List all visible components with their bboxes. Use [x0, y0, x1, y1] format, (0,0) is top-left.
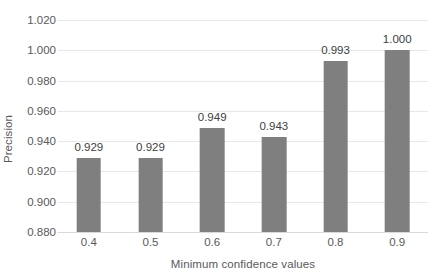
bar[interactable]: [77, 158, 102, 232]
bars-layer: 0.9290.9290.9490.9430.9931.000: [58, 20, 428, 232]
bar-value-label: 0.993: [321, 44, 350, 56]
y-axis-tick-label: 0.960: [16, 105, 56, 117]
y-axis-tick-label: 0.940: [16, 135, 56, 147]
y-axis-tick-label: 0.900: [16, 196, 56, 208]
bar[interactable]: [262, 137, 287, 232]
x-axis-title: Minimum confidence values: [58, 258, 428, 270]
bar-slot: 0.943: [243, 20, 305, 232]
x-axis-tick-labels: 0.40.50.60.70.80.9: [58, 236, 428, 248]
y-axis-tick-label: 1.020: [16, 14, 56, 26]
bar-value-label: 1.000: [383, 33, 412, 45]
x-axis-tick-label: 0.6: [181, 236, 243, 248]
bar-slot: 0.929: [58, 20, 120, 232]
bar-value-label: 0.929: [74, 141, 103, 153]
x-axis-tick-label: 0.4: [58, 236, 120, 248]
y-axis-tick-label: 0.880: [16, 226, 56, 238]
bar-slot: 0.949: [181, 20, 243, 232]
bar[interactable]: [385, 50, 410, 232]
x-axis-tick-label: 0.7: [243, 236, 305, 248]
bar[interactable]: [138, 158, 163, 232]
bar-value-label: 0.929: [136, 141, 165, 153]
bar-value-label: 0.943: [259, 120, 288, 132]
gridline: [58, 232, 428, 233]
plot-area: 0.9290.9290.9490.9430.9931.000: [58, 20, 428, 232]
y-axis-tick-labels: 1.0201.0000.9800.9600.9400.9200.9000.880: [16, 0, 56, 278]
bar[interactable]: [200, 128, 225, 232]
precision-bar-chart: Precision 1.0201.0000.9800.9600.9400.920…: [0, 0, 434, 278]
y-axis-tick-label: 1.000: [16, 44, 56, 56]
y-axis-tick-label: 0.980: [16, 75, 56, 87]
bar-slot: 0.993: [305, 20, 367, 232]
x-axis-tick-label: 0.9: [366, 236, 428, 248]
x-axis-tick-label: 0.8: [305, 236, 367, 248]
bar[interactable]: [323, 61, 348, 232]
y-axis-tick-label: 0.920: [16, 165, 56, 177]
bar-slot: 0.929: [120, 20, 182, 232]
y-axis-title: Precision: [0, 0, 16, 278]
x-axis-tick-label: 0.5: [120, 236, 182, 248]
bar-slot: 1.000: [366, 20, 428, 232]
bar-value-label: 0.949: [198, 111, 227, 123]
